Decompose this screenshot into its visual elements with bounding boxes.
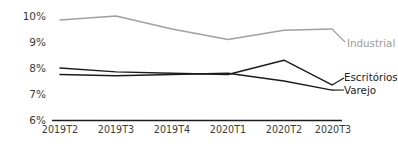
leader-line-industrial bbox=[332, 29, 345, 42]
series-label-varejo: Varejo bbox=[344, 84, 376, 97]
x-tick-label-2020T3: 2020T3 bbox=[300, 124, 366, 136]
series-line-escritorios bbox=[60, 60, 332, 85]
series-label-escritorios: Escritórios bbox=[344, 71, 398, 84]
series-label-industrial: Industrial bbox=[347, 37, 395, 50]
series-line-industrial bbox=[60, 16, 332, 39]
line-chart: 10% 9% 8% 7% 6% Industrial Escritórios V… bbox=[0, 0, 398, 147]
leader-line-escritorios bbox=[332, 78, 344, 85]
series-line-varejo bbox=[60, 73, 332, 90]
